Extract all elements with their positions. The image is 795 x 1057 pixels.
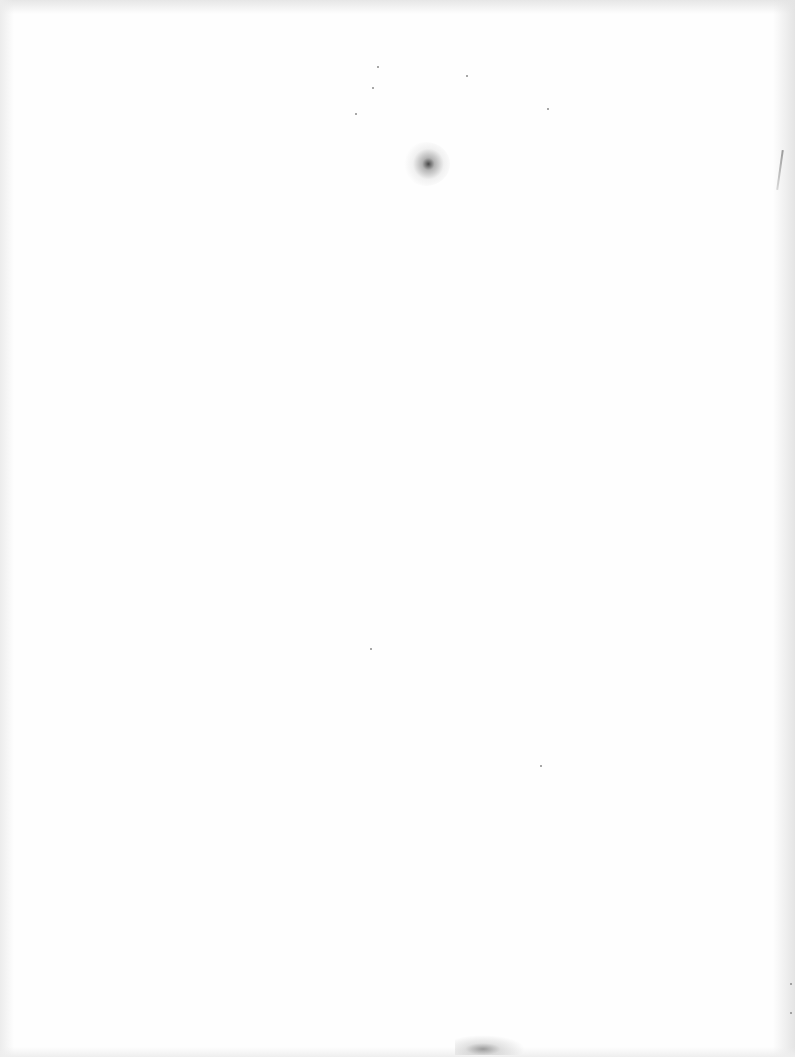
- scan-edge-bottom: [0, 1047, 795, 1057]
- scan-edge-left: [0, 0, 14, 1057]
- scan-speck: [790, 983, 792, 985]
- ink-smudge: [402, 142, 450, 186]
- scan-edge-right: [773, 0, 795, 1057]
- scan-speck: [372, 87, 374, 89]
- scan-speck: [466, 75, 468, 77]
- bottom-dirt-mark: [455, 1035, 525, 1055]
- scan-speck: [790, 1012, 792, 1014]
- scan-speck: [540, 765, 542, 767]
- scan-edge-top: [0, 0, 795, 14]
- scan-speck: [377, 66, 379, 68]
- scan-speck: [547, 108, 549, 110]
- scan-speck: [355, 113, 357, 115]
- scan-speck: [370, 648, 372, 650]
- scanned-page: [0, 0, 795, 1057]
